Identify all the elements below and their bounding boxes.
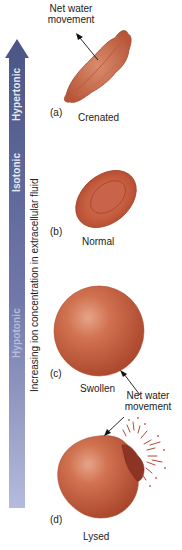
panel-a-name: Crenated [78, 112, 119, 123]
panel-b-name: Normal [82, 236, 114, 247]
panel-d-name: Lysed [83, 531, 109, 542]
panel-b-letter: (b) [50, 226, 62, 237]
net-water-label-top: Net water movement [46, 3, 96, 25]
panel-c-letter: (c) [50, 368, 62, 379]
zone-isotonic: Isotonic [11, 153, 22, 192]
crenated-cell [64, 31, 131, 103]
normal-cell [65, 159, 148, 239]
net-water-label-bottom: Net water movement [120, 390, 176, 412]
zone-hypertonic: Hypertonic [11, 68, 22, 121]
net-water-arrow-a [80, 38, 98, 60]
panel-d-letter: (d) [50, 514, 62, 525]
zone-hypotonic: Hypotonic [11, 308, 22, 358]
lysed-cell [58, 417, 166, 518]
tonicity-arrow [0, 0, 182, 550]
panel-c-name: Swollen [80, 383, 115, 394]
net-water-arrow-d [108, 417, 124, 432]
panel-a-letter: (a) [50, 107, 62, 118]
axis-label: Increasing ion concentration in extracel… [29, 179, 40, 392]
swollen-cell [54, 286, 144, 376]
